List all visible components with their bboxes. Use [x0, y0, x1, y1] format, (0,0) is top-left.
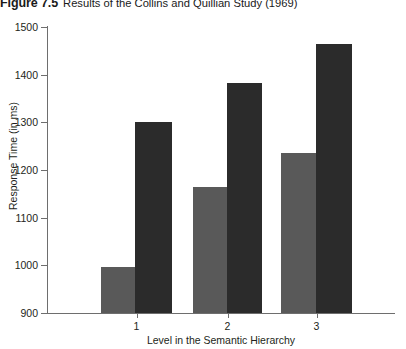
x-tick-1: [137, 313, 138, 318]
x-tick-label-3: 3: [297, 320, 337, 332]
x-axis-line: [47, 313, 395, 314]
y-tick-label-1300: 1300: [0, 117, 38, 127]
bar-level-2-dark: [227, 83, 262, 313]
y-tick-label-1100: 1100: [0, 213, 38, 223]
y-tick-label-1200: 1200: [0, 165, 38, 175]
x-tick-2: [228, 313, 229, 318]
bar-level-1-dark: [135, 122, 172, 313]
bar-level-2-light: [193, 187, 227, 313]
y-tick-label-1000: 1000: [0, 260, 38, 270]
x-tick-label-2: 2: [208, 320, 248, 332]
y-tick-label-1400: 1400: [0, 70, 38, 80]
y-axis-label: Response Time (in ms): [7, 81, 19, 231]
bar-chart: 900100011001200130014001500 123 Response…: [0, 0, 406, 349]
x-tick-3: [317, 313, 318, 318]
plot-area: [47, 27, 395, 313]
y-tick-label-900: 900: [0, 308, 38, 318]
y-tick-900: [41, 313, 47, 314]
x-axis-label: Level in the Semantic Hierarchy: [47, 334, 395, 346]
y-tick-label-1500: 1500: [0, 22, 38, 32]
x-tick-label-1: 1: [117, 320, 157, 332]
bar-level-3-light: [281, 153, 316, 313]
bar-level-3-dark: [316, 44, 352, 313]
bar-level-1-light: [101, 267, 135, 313]
